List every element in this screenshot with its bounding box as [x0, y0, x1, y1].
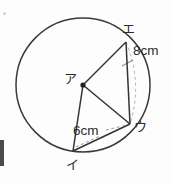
dimension-label-8cm: 8cm — [133, 44, 159, 58]
segment-radius-a-e — [83, 42, 126, 85]
circle-geometry-figure — [0, 0, 174, 183]
point-label-i: イ — [66, 158, 79, 171]
point-label-a: ア — [64, 72, 77, 85]
dimension-label-6cm: 6cm — [73, 124, 99, 138]
segment-radius-a-u — [83, 85, 130, 124]
figure-page: ア イ ウ エ 8cm 6cm — [0, 0, 174, 183]
segment-chord-e-u — [126, 42, 130, 124]
point-label-e: エ — [122, 22, 135, 35]
center-point-dot — [80, 82, 85, 87]
segment-radius-a-i — [73, 85, 83, 151]
point-label-u: ウ — [134, 120, 147, 133]
